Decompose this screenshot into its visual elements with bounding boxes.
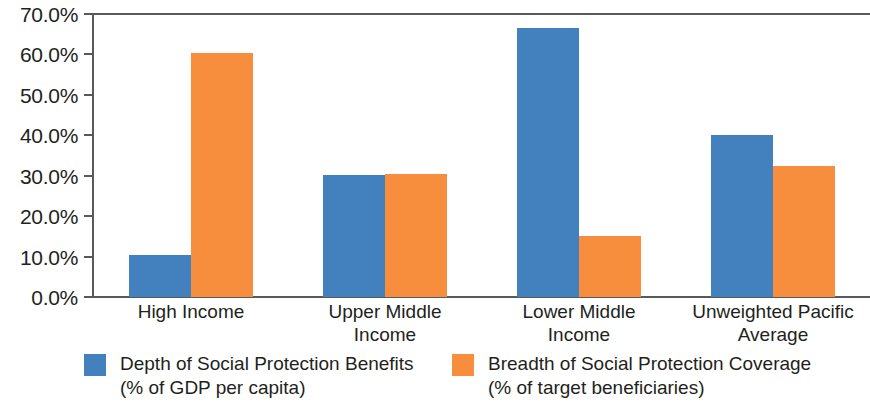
legend-color-swatch (452, 354, 474, 376)
y-axis-tick-mark (84, 53, 92, 55)
bar (323, 175, 385, 297)
y-axis-tick-label: 70.0% (20, 4, 78, 25)
y-axis-tick-mark (84, 94, 92, 96)
x-axis-label: Upper MiddleIncome (288, 300, 482, 346)
bar (517, 28, 579, 297)
y-axis-tick-mark (84, 13, 92, 15)
y-axis-tick-label: 50.0% (20, 84, 78, 105)
x-axis-label-line: Unweighted Pacific (676, 300, 870, 323)
x-axis-label-line: Income (288, 323, 482, 346)
legend-label: Breadth of Social Protection Coverage(% … (488, 352, 811, 400)
bar-group (323, 14, 447, 297)
legend-label-line: (% of GDP per capita) (120, 376, 414, 400)
y-axis-tick-label: 0.0% (31, 287, 78, 308)
bar-group (517, 14, 641, 297)
bar (711, 135, 773, 297)
y-axis-tick-mark (84, 175, 92, 177)
bar-chart: 70.0%60.0%50.0%40.0%30.0%20.0%10.0%0.0% … (0, 0, 870, 411)
plot-area: 70.0%60.0%50.0%40.0%30.0%20.0%10.0%0.0% (0, 0, 870, 300)
y-axis-tick-label: 10.0% (20, 246, 78, 267)
bar (385, 174, 447, 297)
bar (191, 53, 253, 297)
y-axis-tick-label: 30.0% (20, 165, 78, 186)
legend-label-line: Breadth of Social Protection Coverage (488, 352, 811, 376)
bar (129, 255, 191, 297)
chart-legend: Depth of Social Protection Benefits(% of… (0, 352, 870, 411)
x-axis-category-labels: High IncomeUpper MiddleIncomeLower Middl… (94, 300, 870, 350)
legend-label-line: (% of target beneficiaries) (488, 376, 811, 400)
y-axis-tick-label: 60.0% (20, 44, 78, 65)
x-axis-label-line: Upper Middle (288, 300, 482, 323)
y-axis-tick-mark (84, 215, 92, 217)
legend-label-line: Depth of Social Protection Benefits (120, 352, 414, 376)
bar-group (129, 14, 253, 297)
x-axis-label: High Income (94, 300, 288, 323)
y-axis-tick-mark (84, 134, 92, 136)
x-axis-label: Lower MiddleIncome (482, 300, 676, 346)
x-axis-label: Unweighted PacificAverage (676, 300, 870, 346)
legend-item: Depth of Social Protection Benefits(% of… (84, 352, 414, 400)
legend-item: Breadth of Social Protection Coverage(% … (452, 352, 811, 400)
x-axis-label-line: Average (676, 323, 870, 346)
y-axis-tick-label: 40.0% (20, 125, 78, 146)
y-axis-tick-mark (84, 296, 92, 298)
x-axis-label-line: High Income (94, 300, 288, 323)
bar (579, 236, 641, 297)
y-axis-tick-mark (84, 256, 92, 258)
legend-label: Depth of Social Protection Benefits(% of… (120, 352, 414, 400)
y-axis: 70.0%60.0%50.0%40.0%30.0%20.0%10.0%0.0% (0, 0, 84, 300)
bars-container (94, 14, 870, 297)
bar (773, 166, 835, 297)
y-axis-tick-label: 20.0% (20, 206, 78, 227)
bar-group (711, 14, 835, 297)
x-axis-label-line: Income (482, 323, 676, 346)
legend-color-swatch (84, 354, 106, 376)
x-axis-label-line: Lower Middle (482, 300, 676, 323)
